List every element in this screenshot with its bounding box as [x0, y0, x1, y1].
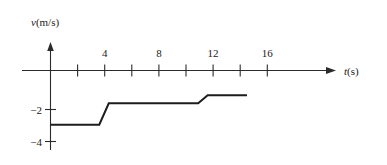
x-axis-title-unit: (s) — [347, 65, 359, 78]
x-axis-group — [22, 65, 336, 77]
velocity-time-chart: 4 8 12 16 −2 −4 v(m/s) t(s) — [0, 0, 387, 165]
x-tick-label-16: 16 — [262, 47, 274, 59]
x-tick-label-4: 4 — [102, 47, 108, 59]
x-tick-label-12: 12 — [208, 47, 219, 59]
x-axis-title: t(s) — [344, 65, 359, 78]
velocity-time-graph-figure: 4 8 12 16 −2 −4 v(m/s) t(s) — [0, 0, 387, 165]
y-tick-label-minus-4: −4 — [30, 136, 42, 148]
y-tick-labels: −2 −4 — [30, 104, 42, 148]
y-tick-label-minus-2: −2 — [30, 104, 42, 116]
y-axis-title-unit: (m/s) — [36, 16, 60, 29]
axis-titles: v(m/s) t(s) — [31, 16, 359, 78]
velocity-curve — [51, 95, 247, 124]
x-tick-labels: 4 8 12 16 — [102, 47, 273, 59]
y-axis-arrowhead — [47, 42, 54, 51]
y-axis-group — [45, 42, 56, 150]
x-tick-label-8: 8 — [156, 47, 162, 59]
x-axis-arrowhead — [326, 67, 336, 74]
y-axis-title: v(m/s) — [31, 16, 59, 29]
